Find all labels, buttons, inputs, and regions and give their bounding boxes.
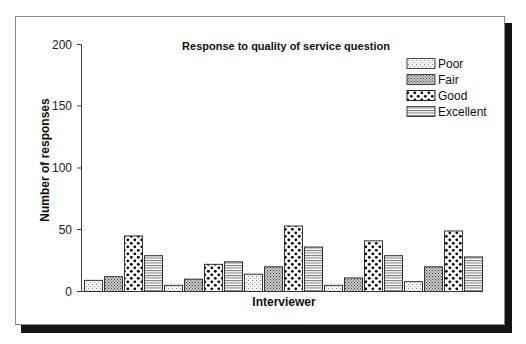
- legend-swatch-poor: [407, 59, 435, 69]
- bar-fair-3: [265, 267, 283, 292]
- bar-series: [85, 226, 483, 291]
- legend-item-fair: Fair: [407, 73, 459, 87]
- bar-fair-2: [185, 279, 203, 291]
- bar-excellent-3: [305, 247, 323, 291]
- bar-good-5: [445, 231, 463, 292]
- bar-poor-2: [165, 285, 183, 291]
- y-axis: 200 150 100 50 0: [52, 38, 82, 299]
- y-axis-label: Number of responses: [38, 98, 52, 222]
- bar-poor-5: [405, 282, 423, 292]
- bar-group-2: [165, 262, 243, 292]
- bar-group-5: [405, 231, 483, 292]
- legend-swatch-fair: [407, 75, 435, 85]
- bar-good-4: [365, 241, 383, 292]
- legend-label-excellent: Excellent: [438, 105, 487, 119]
- bar-excellent-4: [385, 256, 403, 292]
- legend-item-poor: Poor: [407, 57, 463, 71]
- bar-excellent-1: [145, 256, 163, 292]
- bar-fair-1: [105, 277, 123, 292]
- bar-group-1: [85, 236, 163, 292]
- y-tick-150: 150: [52, 99, 72, 113]
- y-tick-0: 0: [65, 285, 72, 299]
- bar-poor-4: [325, 285, 343, 291]
- y-tick-50: 50: [59, 223, 73, 237]
- legend-item-excellent: Excellent: [407, 105, 487, 119]
- bar-excellent-2: [225, 262, 243, 292]
- legend-item-good: Good: [407, 89, 467, 103]
- bar-fair-4: [345, 278, 363, 292]
- bar-good-2: [205, 264, 223, 291]
- bar-good-3: [285, 226, 303, 291]
- bar-chart: 200 150 100 50 0 Response to quality of …: [0, 0, 526, 344]
- bar-poor-1: [85, 280, 103, 291]
- bar-good-1: [125, 236, 143, 292]
- chart-title: Response to quality of service question: [182, 40, 390, 52]
- bar-group-3: [245, 226, 323, 291]
- y-tick-200: 200: [52, 38, 72, 52]
- legend: Poor Fair Good Excellent: [407, 57, 487, 119]
- bar-group-4: [325, 241, 403, 292]
- legend-swatch-excellent: [407, 107, 435, 117]
- legend-swatch-good: [407, 91, 435, 101]
- legend-label-good: Good: [438, 89, 467, 103]
- bar-fair-5: [425, 267, 443, 292]
- bar-poor-3: [245, 274, 263, 291]
- legend-label-fair: Fair: [438, 73, 459, 87]
- x-axis-label: Interviewer: [252, 295, 316, 309]
- legend-label-poor: Poor: [438, 57, 463, 71]
- y-tick-100: 100: [52, 161, 72, 175]
- bar-excellent-5: [465, 257, 483, 292]
